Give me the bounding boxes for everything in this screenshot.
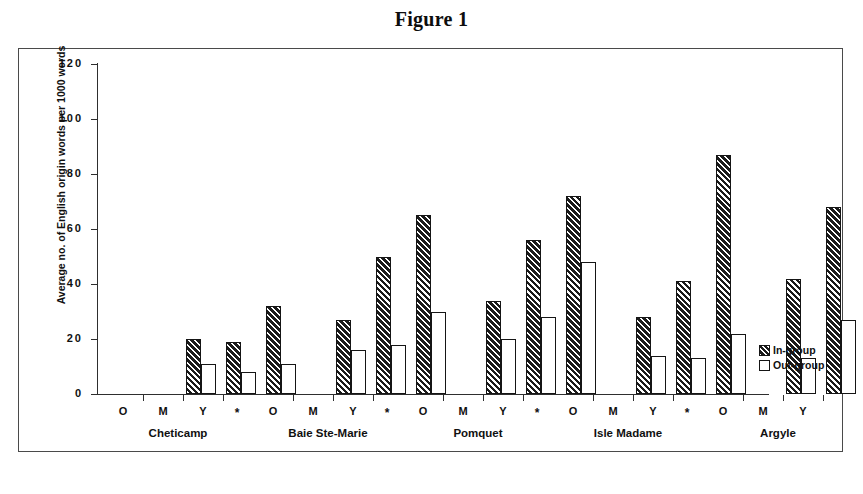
x-axis-category-label-m: M xyxy=(450,405,476,417)
chart-frame: Average no. of English origin words per … xyxy=(18,48,843,452)
bar-in-group xyxy=(226,342,241,394)
bar-in-group xyxy=(566,196,581,394)
x-axis-group-separator: * xyxy=(529,406,545,420)
figure-title: Figure 1 xyxy=(0,8,863,31)
bar-out-group xyxy=(731,334,746,395)
x-axis-group-separator: * xyxy=(679,406,695,420)
bar-out-group xyxy=(281,364,296,394)
x-axis-category-label-y: Y xyxy=(640,405,666,417)
x-axis-tick xyxy=(143,395,144,401)
bar-in-group xyxy=(826,207,841,394)
x-axis-category-label-m: M xyxy=(600,405,626,417)
x-axis-group-label: Cheticamp xyxy=(118,427,238,439)
bar-in-group xyxy=(636,317,651,394)
x-axis-group-separator: * xyxy=(379,406,395,420)
bar-out-group xyxy=(581,262,596,394)
x-axis-category-label-o: O xyxy=(560,405,586,417)
x-axis-category-label-y: Y xyxy=(190,405,216,417)
x-axis-group-label: Pomquet xyxy=(418,427,538,439)
bar-out-group xyxy=(841,320,856,394)
y-axis-tick-label: 60 xyxy=(43,222,83,234)
x-axis-category-label-m: M xyxy=(150,405,176,417)
x-axis-category-label-m: M xyxy=(300,405,326,417)
x-axis-group-label: Argyle xyxy=(718,427,838,439)
x-axis-tick xyxy=(183,395,184,401)
bar-out-group xyxy=(691,358,706,394)
x-axis-category-label-y: Y xyxy=(340,405,366,417)
legend-item-label: Out-group xyxy=(773,359,824,371)
x-axis-category-label-o: O xyxy=(110,405,136,417)
x-axis-tick xyxy=(333,395,334,401)
bar-out-group xyxy=(241,372,256,394)
x-axis-line xyxy=(97,394,769,395)
bar-out-group xyxy=(541,317,556,394)
bar-out-group xyxy=(651,356,666,395)
x-axis-tick xyxy=(483,395,484,401)
x-axis-tick xyxy=(223,395,224,401)
legend-item-label: In-group xyxy=(773,344,816,356)
bar-in-group xyxy=(266,306,281,394)
legend-item: Out-group xyxy=(759,359,824,371)
legend-item: In-group xyxy=(759,344,824,356)
y-axis-tick-label: 100 xyxy=(43,112,83,124)
x-axis-group-label: Isle Madame xyxy=(568,427,688,439)
y-axis-tick xyxy=(91,394,98,395)
x-axis-tick xyxy=(673,395,674,401)
legend-swatch-icon xyxy=(759,345,770,356)
x-axis-category-label-o: O xyxy=(410,405,436,417)
bar-in-group xyxy=(376,257,391,395)
x-axis-category-label-y: Y xyxy=(490,405,516,417)
bar-in-group xyxy=(526,240,541,394)
y-axis-tick-label: 80 xyxy=(43,167,83,179)
x-axis-category-label-m: M xyxy=(750,405,776,417)
bar-in-group xyxy=(716,155,731,394)
x-axis-category-label-o: O xyxy=(260,405,286,417)
x-axis-group-separator: * xyxy=(229,406,245,420)
x-axis-category-label-o: O xyxy=(710,405,736,417)
bar-out-group xyxy=(431,312,446,395)
x-axis-tick xyxy=(633,395,634,401)
x-axis-tick xyxy=(523,395,524,401)
x-axis-tick xyxy=(293,395,294,401)
y-axis-tick-label: 40 xyxy=(43,277,83,289)
x-axis-tick xyxy=(443,395,444,401)
bar-in-group xyxy=(676,281,691,394)
x-axis-tick xyxy=(373,395,374,401)
x-axis-tick xyxy=(593,395,594,401)
bar-in-group xyxy=(486,301,501,395)
x-axis-tick xyxy=(823,395,824,401)
x-axis-tick xyxy=(783,395,784,401)
bar-in-group xyxy=(186,339,201,394)
plot-area xyxy=(97,63,737,394)
x-axis-category-label-y: Y xyxy=(790,405,816,417)
bar-in-group xyxy=(786,279,801,395)
y-axis-tick-label: 0 xyxy=(43,387,83,399)
y-axis-tick-label: 20 xyxy=(43,332,83,344)
bar-out-group xyxy=(501,339,516,394)
legend-swatch-icon xyxy=(759,360,770,371)
chart-legend: In-groupOut-group xyxy=(759,344,824,374)
bar-out-group xyxy=(201,364,216,394)
y-axis-tick-label: 120 xyxy=(43,57,83,69)
bar-in-group xyxy=(336,320,351,394)
bar-out-group xyxy=(351,350,366,394)
bar-in-group xyxy=(416,215,431,394)
bar-out-group xyxy=(391,345,406,395)
x-axis-group-label: Baie Ste-Marie xyxy=(268,427,388,439)
x-axis-tick xyxy=(743,395,744,401)
